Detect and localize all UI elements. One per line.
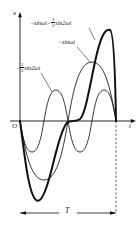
- curve-sum: [20, 30, 116, 201]
- curve-label-sum-suffix: sin2ωt: [55, 20, 71, 26]
- curve-label-sum-prefix: −sinωt−: [30, 20, 51, 26]
- leader-line-fundamental: [77, 47, 91, 63]
- leader-line-harmonic: [41, 73, 52, 92]
- curve-label-harmonic-prefix: −: [16, 65, 20, 71]
- waveform-figure: x t O −sinωt−12sin2ωt −sinωt −12sin2ωt T: [0, 0, 139, 241]
- leader-line-sum: [89, 28, 95, 40]
- y-axis-label: x: [13, 10, 16, 17]
- curve-label-fundamental: −sinωt: [58, 39, 75, 45]
- x-axis-label: t: [129, 123, 131, 130]
- curve-label-sum: −sinωt−12sin2ωt: [30, 17, 71, 28]
- curve-label-harmonic-suffix: sin2ωt: [24, 65, 40, 71]
- period-label: T: [65, 207, 69, 215]
- plot-canvas: [0, 0, 139, 241]
- curve-label-harmonic: −12sin2ωt: [16, 62, 40, 73]
- origin-label: O: [12, 123, 17, 130]
